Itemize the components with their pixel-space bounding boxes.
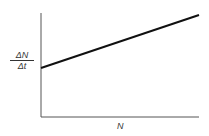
y-label-denominator: Δt bbox=[18, 61, 27, 71]
y-label-numerator: ΔN bbox=[10, 50, 34, 61]
x-axis-label: N bbox=[117, 121, 124, 131]
y-axis-label: ΔN Δt bbox=[10, 50, 34, 71]
data-line bbox=[41, 15, 199, 68]
